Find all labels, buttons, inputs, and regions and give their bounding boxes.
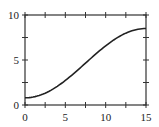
x-tick-label: 15: [141, 111, 153, 123]
x-tick-label: 0: [22, 111, 28, 123]
plot-frame: [25, 15, 146, 105]
x-axis-labels: 0 5 10 15: [22, 111, 152, 123]
y-tick-label: 5: [14, 54, 20, 66]
chart: 0 5 10 15 0 5 10: [0, 0, 159, 127]
y-tick-label: 10: [8, 9, 20, 21]
data-line: [25, 29, 146, 98]
y-axis-labels: 0 5 10: [8, 9, 20, 111]
x-tick-label: 10: [100, 111, 112, 123]
y-tick-label: 0: [14, 99, 20, 111]
axis-ticks: [22, 12, 149, 108]
x-tick-label: 5: [63, 111, 69, 123]
